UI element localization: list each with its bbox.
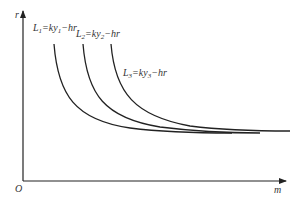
curve-l3 xyxy=(111,44,290,131)
curve-l2 xyxy=(83,44,260,133)
x-axis-label: m xyxy=(274,185,281,195)
curve-label-l3: L3=ky3−hr xyxy=(123,68,167,80)
origin-label: O xyxy=(15,184,22,194)
curve-l1 xyxy=(54,44,232,133)
curve-label-l2: L2=ky2−hr xyxy=(76,29,120,41)
y-axis-label: r xyxy=(15,10,19,20)
curve-label-l1: L1=ky1−hr xyxy=(33,23,77,35)
